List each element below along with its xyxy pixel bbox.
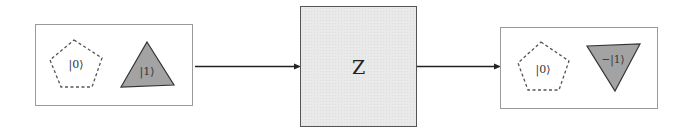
input-basis1-label: |1⟩ [140,65,155,79]
gate-label: Z [301,56,416,78]
input-basis0-label: |0⟩ [69,58,84,72]
z-gate-box: Z [300,6,417,127]
arrow-input-to-gate [193,60,303,74]
output-basis1-label: −|1⟩ [601,53,624,67]
diagram-canvas: |0⟩ |1⟩ Z |0⟩ −|1⟩ [0,0,689,132]
arrow-gate-to-output [417,60,503,74]
input-state-box: |0⟩ |1⟩ [35,24,193,106]
input-state-shapes: |0⟩ |1⟩ [36,25,194,107]
output-state-shapes: |0⟩ −|1⟩ [501,28,659,110]
output-state-box: |0⟩ −|1⟩ [500,27,658,109]
output-basis0-label: |0⟩ [536,63,551,77]
triangle-down-icon [587,44,640,91]
